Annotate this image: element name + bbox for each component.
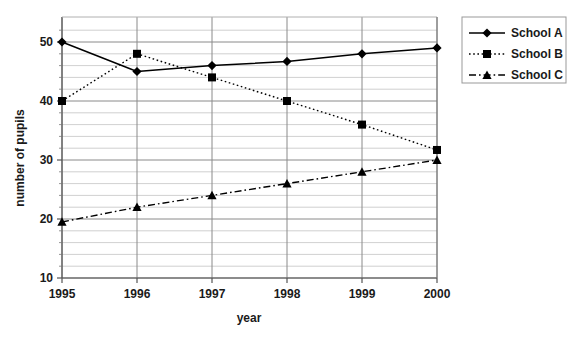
marker-square (358, 121, 366, 129)
marker-square (208, 73, 216, 81)
y-tick-label: 40 (40, 94, 54, 108)
marker-square (433, 146, 441, 154)
y-axis-title: number of pupils (13, 109, 27, 207)
x-tick-label: 1997 (199, 287, 226, 301)
x-tick-label: 1999 (349, 287, 376, 301)
y-tick-label: 30 (40, 153, 54, 167)
y-tick-label: 10 (40, 271, 54, 285)
x-tick-label: 1995 (49, 287, 76, 301)
legend-label: School A (511, 26, 563, 40)
y-tick-label: 50 (40, 35, 54, 49)
legend: School ASchool BSchool C (462, 17, 566, 83)
y-tick-label: 20 (40, 212, 54, 226)
x-tick-label: 2000 (424, 287, 451, 301)
x-tick-label: 1996 (124, 287, 151, 301)
marker-square (133, 50, 141, 58)
line-chart: 1020304050 199519961997199819992000 year… (0, 0, 572, 340)
marker-square (283, 97, 291, 105)
marker-square (58, 97, 66, 105)
x-axis-title: year (237, 311, 262, 325)
legend-label: School C (511, 68, 563, 82)
marker-square (483, 50, 491, 58)
legend-label: School B (511, 47, 563, 61)
chart-svg: 1020304050 199519961997199819992000 year… (0, 0, 572, 340)
x-tick-label: 1998 (274, 287, 301, 301)
